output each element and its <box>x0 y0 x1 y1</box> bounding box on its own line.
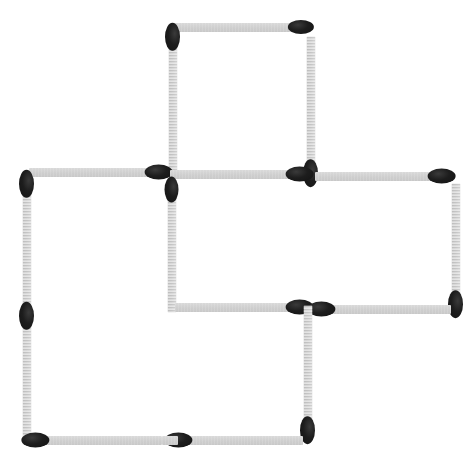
matchstick-body <box>452 183 461 307</box>
matchstick-left-square-bottom-stub[interactable] <box>162 436 178 445</box>
matchstick-body <box>175 303 303 312</box>
matchstick-body <box>32 436 162 445</box>
matchstick-center-square-bottom-horizontal[interactable] <box>175 303 303 312</box>
matchstick-head-icon <box>166 22 181 50</box>
matchstick-top-square-left-vertical[interactable] <box>169 33 178 175</box>
matchstick-left-square-upper-left-vertical[interactable] <box>23 180 32 320</box>
matchstick-body <box>172 23 304 32</box>
matchstick-body <box>318 305 451 314</box>
matchstick-head-icon <box>165 176 179 202</box>
matchstick-bottom-right-horizontal[interactable] <box>175 436 303 445</box>
matchstick-body <box>23 180 32 320</box>
matchstick-body <box>315 172 445 181</box>
matchstick-center-bottom-vertical[interactable] <box>304 305 313 433</box>
matchstick-head-icon <box>428 169 456 184</box>
matchstick-body <box>162 436 178 445</box>
matchstick-top-square-top-horizontal[interactable] <box>172 23 304 32</box>
matchstick-head-icon <box>286 167 314 182</box>
matchstick-top-square-right-vertical[interactable] <box>307 36 316 176</box>
matchstick-head-icon <box>288 20 314 34</box>
matchstick-right-square-bottom-horizontal[interactable] <box>318 305 451 314</box>
matchstick-left-square-lower-left-vertical[interactable] <box>23 312 32 438</box>
matchstick-body <box>307 36 316 176</box>
matchstick-center-square-left-vertical[interactable] <box>168 186 177 312</box>
matchstick-body <box>23 312 32 438</box>
matchstick-body <box>304 305 313 433</box>
matchstick-head-icon <box>20 301 35 329</box>
matchstick-body <box>170 170 303 179</box>
matchstick-center-top-horizontal[interactable] <box>170 170 303 179</box>
matchstick-body <box>29 168 162 177</box>
matchstick-upper-left-horizontal[interactable] <box>29 168 162 177</box>
matchstick-right-square-top-horizontal[interactable] <box>315 172 445 181</box>
matchstick-right-square-right-vertical[interactable] <box>452 183 461 307</box>
matchstick-body <box>175 436 303 445</box>
matchstick-body <box>169 33 178 175</box>
matchstick-head-icon <box>20 169 35 197</box>
matchstick-figure-canvas <box>0 0 475 462</box>
matchstick-bottom-left-horizontal[interactable] <box>32 436 162 445</box>
matchstick-body <box>168 186 177 312</box>
matchstick-head-icon <box>21 433 49 448</box>
